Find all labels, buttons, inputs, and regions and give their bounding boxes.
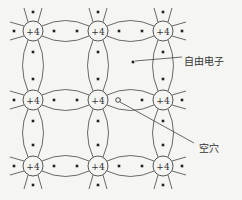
- svg-text:+4: +4: [26, 96, 40, 106]
- svg-text:+4: +4: [156, 27, 170, 37]
- svg-text:+4: +4: [26, 162, 40, 172]
- svg-text:+4: +4: [91, 162, 105, 172]
- svg-text:+4: +4: [91, 27, 105, 37]
- svg-text:+4: +4: [91, 96, 105, 106]
- svg-text:+4: +4: [156, 162, 170, 172]
- svg-text:+4: +4: [26, 27, 40, 37]
- hole-label: 空穴: [199, 140, 219, 155]
- lattice-diagram: +4+4+4+4+4+4+4+4+4 自由电子 空穴: [0, 0, 242, 200]
- svg-text:+4: +4: [156, 96, 170, 106]
- free-electron-label: 自由电子: [184, 53, 224, 68]
- lattice-svg: +4+4+4+4+4+4+4+4+4: [0, 0, 242, 200]
